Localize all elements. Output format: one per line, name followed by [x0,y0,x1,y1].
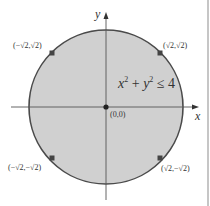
y-axis-arrow-icon [104,12,109,19]
x-axis-label: x [194,109,201,123]
label-upper-left: (−√2,√2) [13,41,42,50]
point-lower-left [50,156,55,161]
eq-rel: ≤ 4 [153,76,175,91]
eq-plus: + [128,76,143,91]
origin-label: (0,0) [110,110,126,119]
point-upper-left [50,51,55,56]
point-upper-right [158,51,163,56]
disk-diagram: x y (0,0) (−√2,√2) (√2,√2) (−√2,−√2) (√2… [0,0,210,206]
origin-point [103,104,108,109]
label-lower-left: (−√2,−√2) [8,163,41,172]
y-axis-label: y [94,7,101,21]
point-lower-right [158,156,163,161]
label-lower-right: (√2,−√2) [161,164,190,173]
label-upper-right: (√2,√2) [163,41,187,50]
